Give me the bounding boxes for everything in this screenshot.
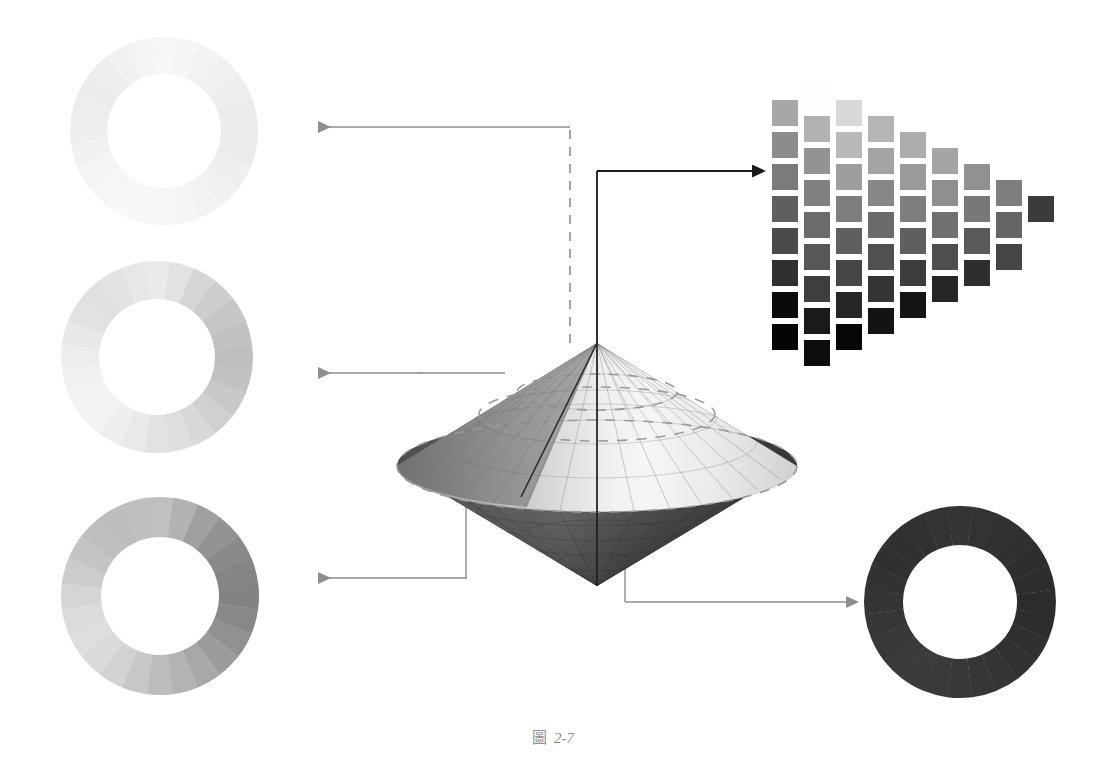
tone-swatch: [996, 212, 1022, 238]
tone-swatch: [804, 276, 830, 302]
tone-column: [804, 84, 830, 366]
tone-swatch: [836, 100, 862, 126]
tone-swatch: [804, 180, 830, 206]
caption-label: 圖: [532, 729, 548, 747]
tone-swatch: [772, 100, 798, 126]
tone-swatch: [772, 164, 798, 190]
tone-column: [996, 180, 1022, 270]
tone-swatch: [868, 308, 894, 334]
tone-swatch: [836, 228, 862, 254]
tone-swatch: [804, 116, 830, 142]
tone-column: [772, 68, 798, 350]
tone-swatch: [1028, 196, 1054, 222]
tone-swatch: [932, 276, 958, 302]
tone-swatch: [804, 340, 830, 366]
tone-swatch: [900, 132, 926, 158]
tone-swatch: [804, 84, 830, 110]
caption-number: 2-7: [554, 730, 574, 746]
tone-swatch: [900, 196, 926, 222]
tone-swatch: [836, 324, 862, 350]
tone-swatch: [836, 292, 862, 318]
tone-swatch: [772, 260, 798, 286]
tone-swatch: [772, 68, 798, 94]
tone-swatch: [836, 164, 862, 190]
tone-swatch: [964, 260, 990, 286]
tone-swatch: [932, 212, 958, 238]
tone-swatch: [804, 212, 830, 238]
tone-swatch: [868, 180, 894, 206]
tone-swatch: [900, 164, 926, 190]
tone-column: [868, 116, 894, 334]
tone-swatch: [900, 292, 926, 318]
tone-swatch: [964, 196, 990, 222]
tone-swatch: [772, 324, 798, 350]
tone-swatch: [932, 244, 958, 270]
tone-swatch: [868, 148, 894, 174]
tone-swatch: [996, 244, 1022, 270]
tone-swatch: [772, 292, 798, 318]
tone-column: [1028, 196, 1054, 222]
tone-swatch: [900, 228, 926, 254]
tone-swatch: [772, 196, 798, 222]
tone-swatch: [804, 148, 830, 174]
tone-swatch: [868, 116, 894, 142]
tone-swatch: [836, 260, 862, 286]
tone-swatch: [772, 132, 798, 158]
tone-swatch: [932, 148, 958, 174]
tone-swatch: [868, 212, 894, 238]
tone-column: [932, 148, 958, 302]
tone-swatch: [996, 180, 1022, 206]
tone-swatch: [804, 244, 830, 270]
tone-swatch: [772, 228, 798, 254]
tone-swatch: [932, 180, 958, 206]
figure-caption: 圖 2-7: [0, 726, 1106, 747]
figure-root: 圖 2-7: [0, 0, 1106, 759]
tone-swatch: [900, 260, 926, 286]
tone-swatch: [804, 308, 830, 334]
tone-swatch: [868, 276, 894, 302]
tone-swatch: [836, 196, 862, 222]
tone-swatch: [868, 244, 894, 270]
tone-swatch: [836, 132, 862, 158]
color-solid-figure: [0, 0, 1106, 759]
tone-swatch: [964, 164, 990, 190]
tone-swatch: [964, 228, 990, 254]
